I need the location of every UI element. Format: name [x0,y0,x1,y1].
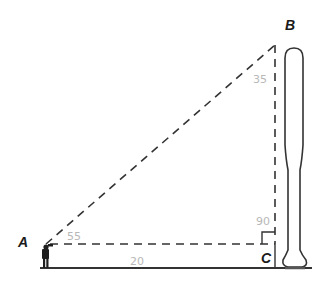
hypotenuse-ab [46,45,275,244]
angle-b-annotation: 35 [253,73,267,86]
right-angle-marker [262,232,275,244]
vertex-label-b: B [285,17,295,33]
baseball-bat [283,48,307,267]
vertex-label-c: C [261,250,272,266]
angle-a-annotation: 55 [67,230,81,243]
vertex-label-a: A [17,234,28,250]
angle-c-annotation: 90 [256,215,270,228]
person-icon [42,244,53,268]
side-ac-annotation: 20 [130,255,144,268]
triangle-diagram: A B C 55 35 90 20 [0,0,327,285]
